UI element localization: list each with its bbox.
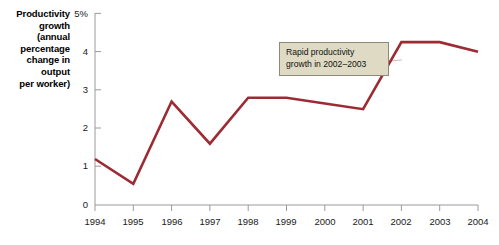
x-tick-label-1994: 1994 [75,216,115,227]
y-tick-label-1: 1 [62,160,88,171]
x-tick-label-2002: 2002 [381,216,421,227]
productivity-growth-line-chart: Productivity growth (annual percentage c… [0,0,499,245]
x-tick-label-1998: 1998 [228,216,268,227]
x-tick-label-2004: 2004 [458,216,498,227]
x-tick-label-1996: 1996 [152,216,192,227]
x-tick-label-1997: 1997 [190,216,230,227]
x-tick-label-1995: 1995 [113,216,153,227]
annotation-line-1: Rapid productivity [286,47,383,59]
y-axis-ticks [95,13,101,166]
y-tick-label-2: 2 [62,122,88,133]
y-tick-label-5: 5% [62,8,88,19]
x-tick-label-2000: 2000 [305,216,345,227]
x-axis-ticks [95,205,478,211]
y-tick-label-4: 4 [62,46,88,57]
x-tick-label-2001: 2001 [343,216,383,227]
x-tick-label-2003: 2003 [420,216,460,227]
y-tick-label-3: 3 [62,84,88,95]
x-tick-label-1999: 1999 [266,216,306,227]
annotation-callout: Rapid productivity growth in 2002–2003 [279,42,389,76]
y-tick-label-0: 0 [62,199,88,210]
annotation-line-2: growth in 2002–2003 [286,59,383,71]
